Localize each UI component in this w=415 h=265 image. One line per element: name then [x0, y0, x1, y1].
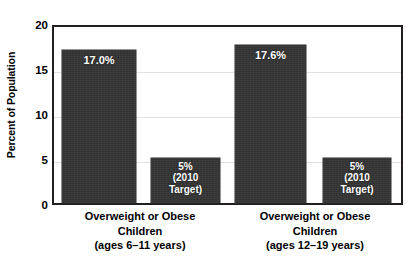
- bar-children-6-11-current: 17.0%: [62, 50, 136, 203]
- category-label-6-11: Overweight or Obese Children (ages 6–11 …: [52, 209, 228, 253]
- y-axis-title: Percent of Population: [0, 0, 22, 210]
- category-label-6-11-line3: (ages 6–11 years): [52, 238, 228, 253]
- y-axis-title-text: Percent of Population: [5, 52, 17, 158]
- y-tick-15: 15: [22, 64, 48, 76]
- bar-children-12-19-target: 5% (2010 Target): [323, 158, 391, 203]
- y-tick-10: 10: [22, 109, 48, 121]
- plot-area: 17.0% 5% (2010 Target) 17.6% 5% (2010 Ta…: [52, 25, 403, 205]
- y-tick-5: 5: [22, 154, 48, 166]
- category-label-12-19-line3: (ages 12–19 years): [225, 238, 405, 253]
- bar-children-12-19-current: 17.6%: [235, 45, 306, 203]
- y-tick-0: 0: [22, 199, 48, 211]
- bar-label-17-0: 17.0%: [62, 54, 136, 67]
- bar-label-target-2-line3: Target): [323, 184, 391, 196]
- category-label-12-19-line1: Overweight or Obese: [225, 209, 405, 224]
- y-axis-tick-labels: 20 15 10 5 0: [22, 0, 48, 265]
- category-label-6-11-line2: Children: [52, 224, 228, 239]
- bar-chart-figure: Percent of Population 20 15 10 5 0 17.0%…: [0, 0, 415, 265]
- category-label-12-19-line2: Children: [225, 224, 405, 239]
- bar-label-target-2-line2: (2010: [323, 172, 391, 184]
- bar-label-target-1-line2: (2010: [151, 172, 220, 184]
- category-label-6-11-line1: Overweight or Obese: [52, 209, 228, 224]
- bar-label-17-6: 17.6%: [235, 49, 306, 62]
- y-tick-20: 20: [22, 19, 48, 31]
- category-label-12-19: Overweight or Obese Children (ages 12–19…: [225, 209, 405, 253]
- bar-children-6-11-target: 5% (2010 Target): [151, 158, 220, 203]
- bar-label-target-1-line3: Target): [151, 184, 220, 196]
